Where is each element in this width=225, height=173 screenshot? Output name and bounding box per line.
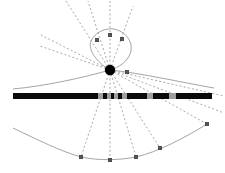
bar-segment-1 bbox=[98, 93, 103, 99]
bar-segment-6 bbox=[118, 93, 122, 99]
bar-segment-11 bbox=[169, 93, 176, 99]
focal-hub bbox=[105, 65, 115, 75]
bar-segment-2 bbox=[103, 93, 107, 99]
loop-node-top bbox=[108, 33, 111, 36]
lower-node-2 bbox=[108, 158, 111, 161]
focal-hub-dot bbox=[105, 65, 115, 75]
bar-segment-12 bbox=[176, 93, 212, 99]
lower-node-4 bbox=[158, 146, 161, 149]
bar-segment-7 bbox=[122, 93, 127, 99]
lower-node-3 bbox=[134, 155, 137, 158]
bar-segment-3 bbox=[107, 93, 111, 99]
bar-segment-10 bbox=[153, 93, 169, 99]
loop-node-left bbox=[95, 38, 98, 41]
loop-node-right bbox=[120, 37, 123, 40]
bar-segment-5 bbox=[114, 93, 118, 99]
horizontal-bar bbox=[13, 93, 212, 99]
lower-node-5 bbox=[205, 122, 208, 125]
figure-canvas: Ray convergence diagram Dashed rays radi… bbox=[0, 0, 225, 173]
hub-adjacent-node-right bbox=[125, 70, 128, 73]
ray-diagram-svg: Ray convergence diagram Dashed rays radi… bbox=[0, 0, 225, 173]
bar-segment-0 bbox=[13, 93, 98, 99]
bar-segment-8 bbox=[127, 93, 147, 99]
bar-segment-9 bbox=[147, 93, 153, 99]
bar-segment-4 bbox=[111, 93, 114, 99]
lower-node-1 bbox=[79, 155, 82, 158]
